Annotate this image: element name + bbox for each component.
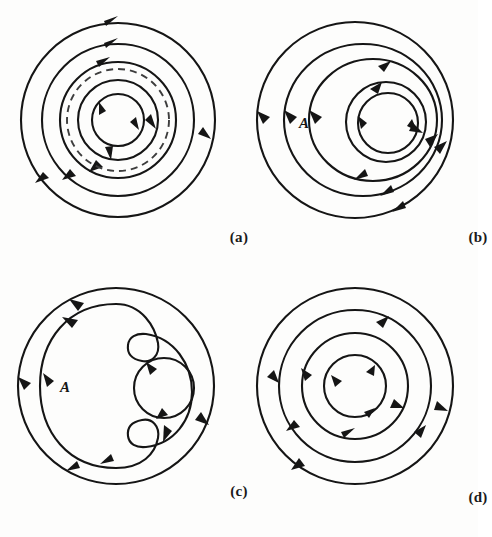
region-label-A: A bbox=[59, 379, 70, 395]
limit-cycle-dashed bbox=[67, 69, 169, 171]
arrowhead bbox=[284, 110, 297, 124]
arrowhead bbox=[18, 377, 31, 390]
arrowhead bbox=[69, 299, 84, 311]
arrowhead bbox=[267, 370, 279, 383]
arrowhead bbox=[130, 117, 139, 130]
orbit-1-outer bbox=[21, 23, 215, 217]
arrowhead bbox=[100, 454, 114, 464]
arrowhead bbox=[104, 16, 118, 26]
caption-d: (d) bbox=[239, 489, 492, 506]
caption-b: (b) bbox=[239, 229, 492, 246]
region-label-A: A bbox=[298, 115, 309, 131]
arrowhead bbox=[99, 102, 106, 115]
panel-b: A bbox=[239, 0, 478, 268]
arrowhead bbox=[198, 127, 211, 139]
arrowhead bbox=[358, 116, 367, 129]
arrowhead bbox=[43, 373, 54, 387]
arrowhead bbox=[195, 412, 209, 425]
arrowhead bbox=[66, 461, 80, 471]
orbit-1-outer bbox=[257, 288, 453, 484]
arrowhead bbox=[309, 110, 322, 124]
panel-c-orbits: A bbox=[18, 288, 214, 484]
arrowhead bbox=[331, 375, 342, 387]
arrowhead bbox=[434, 401, 448, 411]
arrowhead bbox=[364, 408, 375, 418]
arrowhead bbox=[366, 365, 375, 376]
orbit-3 bbox=[302, 333, 408, 439]
arrowhead bbox=[392, 201, 406, 212]
arrowhead bbox=[145, 114, 156, 129]
arrowhead bbox=[354, 169, 368, 180]
arrowhead bbox=[257, 111, 270, 124]
orbit-1-outer bbox=[257, 22, 453, 218]
orbit-3-small bbox=[134, 358, 194, 418]
orbit-4-inner bbox=[324, 355, 386, 417]
arrowhead bbox=[341, 428, 355, 438]
orbit-2 bbox=[42, 44, 194, 196]
arrowhead bbox=[380, 185, 394, 196]
arrowhead bbox=[390, 399, 404, 408]
panel-a bbox=[0, 0, 239, 268]
panel-b-orbits: A bbox=[257, 22, 453, 218]
panel-d-orbits bbox=[257, 288, 453, 484]
arrowhead bbox=[376, 316, 389, 328]
arrowhead bbox=[146, 362, 157, 375]
panel-a-orbits bbox=[21, 16, 215, 217]
arrowhead bbox=[378, 61, 391, 72]
